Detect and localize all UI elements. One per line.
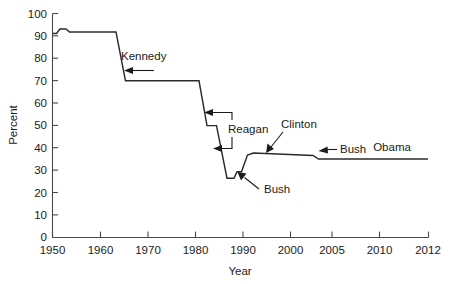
x-tick-label: 1950 — [40, 244, 66, 256]
clinton-arrow-line — [271, 132, 283, 147]
annotation-clinton: Clinton — [266, 118, 317, 153]
data-series-line — [53, 29, 429, 178]
x-tick-label: 2005 — [319, 244, 345, 256]
annotation-kennedy: Kennedy — [121, 50, 167, 74]
x-tick-label: 1960 — [88, 244, 114, 256]
x-axis-title: Year — [228, 265, 251, 277]
y-tick-label: 90 — [34, 30, 47, 42]
annotation-label-bush-1991: Bush — [264, 183, 290, 195]
x-tick-label: 2010 — [367, 244, 393, 256]
bush-1991-arrow-line — [245, 178, 260, 190]
x-tick-label: 1980 — [183, 244, 209, 256]
y-tick-label: 10 — [34, 209, 47, 221]
annotation-label-reagan: Reagan — [228, 123, 268, 135]
y-tick-label: 30 — [34, 164, 47, 176]
kennedy-arrow-head — [124, 67, 133, 74]
x-tick-label: 2000 — [278, 244, 304, 256]
annotation-bush-1991: Bush — [238, 172, 291, 195]
y-axis-tick-labels: 100 90 80 70 60 50 40 30 20 10 0 — [28, 8, 47, 244]
reagan-arrow-line-lower — [221, 137, 232, 149]
y-tick-label: 50 — [34, 119, 47, 131]
x-tick-label: 1990 — [230, 244, 256, 256]
tax-rate-line-chart: 100 90 80 70 60 50 40 30 20 10 0 1950 — [0, 0, 452, 284]
y-tick-label: 60 — [34, 97, 47, 109]
annotation-label-kennedy: Kennedy — [121, 50, 167, 62]
y-tick-label: 0 — [41, 231, 47, 243]
annotation-obama: Obama — [373, 141, 411, 153]
annotation-label-clinton: Clinton — [281, 118, 317, 130]
annotation-bush-2003: Bush — [319, 143, 367, 155]
y-tick-label: 40 — [34, 142, 47, 154]
x-tick-label: 2012 — [415, 244, 441, 256]
y-axis-ticks — [53, 14, 59, 215]
x-axis-tick-labels: 1950 1960 1970 1980 1990 2000 2005 2010 … — [40, 244, 441, 256]
bush-2003-arrow-head — [319, 147, 329, 154]
x-tick-label: 1970 — [135, 244, 161, 256]
x-axis-ticks — [53, 232, 429, 238]
annotation-reagan: Reagan — [204, 109, 268, 152]
y-tick-label: 80 — [34, 52, 47, 64]
annotation-label-obama: Obama — [373, 141, 411, 153]
annotation-label-bush-2003: Bush — [340, 143, 366, 155]
bush-1991-arrow-head — [238, 172, 247, 181]
reagan-arrow-line-upper — [212, 113, 232, 121]
y-tick-label: 70 — [34, 75, 47, 87]
y-axis-title: Percent — [7, 104, 19, 144]
y-tick-label: 100 — [28, 8, 47, 20]
reagan-arrow-head-lower — [213, 145, 222, 152]
y-tick-label: 20 — [34, 187, 47, 199]
chart-plot-area: 100 90 80 70 60 50 40 30 20 10 0 1950 — [0, 0, 452, 284]
